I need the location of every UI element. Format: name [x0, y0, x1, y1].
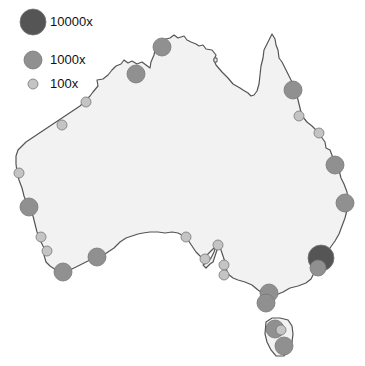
marker-small [213, 240, 223, 250]
marker-small [219, 270, 229, 280]
marker-medium [284, 81, 302, 99]
legend-label-1000x: 1000x [50, 52, 85, 67]
marker-medium [275, 337, 293, 355]
marker-small [14, 168, 24, 178]
marker-medium [54, 263, 72, 281]
legend-label-10000x: 10000x [50, 14, 93, 29]
marker-small [181, 232, 191, 242]
legend-circle-medium-icon [24, 51, 42, 69]
marker-small [36, 232, 46, 242]
marker-small [200, 254, 210, 264]
legend-label-100x: 100x [50, 76, 78, 91]
marker-medium [127, 65, 145, 83]
marker-small [314, 128, 324, 138]
legend-symbols [20, 9, 46, 89]
marker-medium [20, 198, 38, 216]
marker-medium [336, 194, 354, 212]
groote-island [214, 58, 217, 62]
marker-small [294, 111, 304, 121]
marker-medium [326, 156, 344, 174]
marker-medium [310, 260, 326, 276]
mainland-coastline [16, 34, 348, 296]
marker-small [42, 246, 52, 256]
marker-small [57, 120, 67, 130]
legend-circle-large-icon [20, 9, 46, 35]
marker-small [81, 97, 91, 107]
marker-medium [88, 248, 106, 266]
legend-circle-small-icon [28, 79, 38, 89]
marker-small [276, 325, 286, 335]
marker-medium [257, 294, 275, 312]
marker-small [219, 260, 229, 270]
marker-medium [153, 38, 171, 56]
